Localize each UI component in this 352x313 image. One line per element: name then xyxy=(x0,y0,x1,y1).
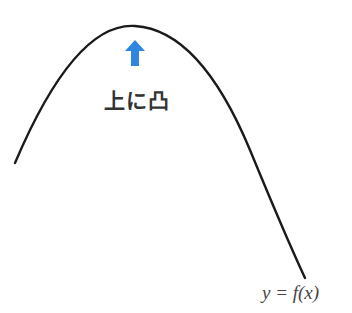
diagram-canvas xyxy=(0,0,352,313)
concavity-label: 上に凸 xyxy=(101,84,173,114)
up-arrow-icon xyxy=(125,40,145,66)
concave-down-curve xyxy=(15,26,305,278)
function-equation: y = f(x) xyxy=(262,282,319,304)
